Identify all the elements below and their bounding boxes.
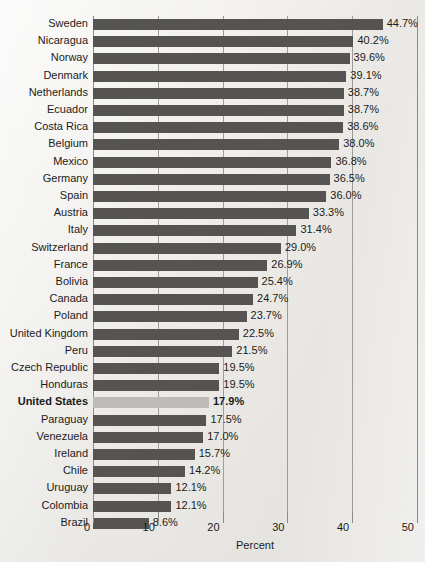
- category-label: Czech Republic: [11, 360, 88, 375]
- value-label: 24.7%: [257, 291, 288, 306]
- category-label: Nicaragua: [38, 33, 88, 48]
- bar-row: Paraguay17.5%: [93, 412, 417, 429]
- value-label: 12.1%: [175, 498, 206, 513]
- category-label: Switzerland: [31, 240, 88, 255]
- bar-row: Norway39.6%: [93, 50, 417, 67]
- bar: [93, 415, 206, 426]
- bar-row: Ireland15.7%: [93, 446, 417, 463]
- bar-row: United Kingdom22.5%: [93, 326, 417, 343]
- bar: [93, 311, 247, 322]
- x-tick-mark-10: [158, 512, 159, 523]
- x-axis: Percent 01020304050: [93, 512, 417, 562]
- value-label: 15.7%: [199, 446, 230, 461]
- bar-row: Czech Republic19.5%: [93, 360, 417, 377]
- value-label: 44.7%: [387, 16, 418, 31]
- value-label: 23.7%: [251, 308, 282, 323]
- bar: [93, 105, 344, 116]
- category-label: Honduras: [40, 377, 88, 392]
- value-label: 17.5%: [210, 412, 241, 427]
- bar: [93, 294, 253, 305]
- value-label: 26.9%: [271, 257, 302, 272]
- bar-row: Poland23.7%: [93, 308, 417, 325]
- value-label: 36.0%: [330, 188, 361, 203]
- value-label: 21.5%: [236, 343, 267, 358]
- bar: [93, 208, 309, 219]
- bar-row: Bolivia25.4%: [93, 274, 417, 291]
- bar-chart: Sweden44.7%Nicaragua40.2%Norway39.6%Denm…: [0, 0, 425, 562]
- bar: [93, 36, 353, 47]
- bar-row: Germany36.5%: [93, 171, 417, 188]
- category-label: Colombia: [42, 498, 88, 513]
- x-tick-mark-20: [223, 512, 224, 523]
- bar: [93, 346, 232, 357]
- bar: [93, 157, 331, 168]
- bar-row: Costa Rica38.6%: [93, 119, 417, 136]
- x-tick-label-0: 0: [84, 521, 93, 534]
- category-label: Austria: [54, 205, 88, 220]
- value-label: 33.3%: [313, 205, 344, 220]
- value-label: 38.7%: [348, 85, 379, 100]
- x-tick-label-40: 40: [337, 521, 352, 534]
- value-label: 38.0%: [343, 136, 374, 151]
- value-label: 38.6%: [347, 119, 378, 134]
- x-tick-label-50: 50: [402, 521, 417, 534]
- bar-row: Austria33.3%: [93, 205, 417, 222]
- value-label: 12.1%: [175, 480, 206, 495]
- bar-row: Honduras19.5%: [93, 377, 417, 394]
- bar: [93, 53, 350, 64]
- value-label: 36.8%: [335, 154, 366, 169]
- bar: [93, 174, 330, 185]
- value-label: 14.2%: [189, 463, 220, 478]
- bar-row: Netherlands38.7%: [93, 85, 417, 102]
- category-label: Canada: [49, 291, 88, 306]
- x-axis-title: Percent: [93, 539, 417, 551]
- bar: [93, 19, 383, 30]
- bar: [93, 225, 296, 236]
- x-tick-mark-30: [287, 512, 288, 523]
- bar-row: Denmark39.1%: [93, 68, 417, 85]
- bar-row: United States17.9%: [93, 394, 417, 411]
- x-tick-mark-40: [352, 512, 353, 523]
- bar: [93, 363, 219, 374]
- bar: [93, 243, 281, 254]
- bar-row: Venezuela17.0%: [93, 429, 417, 446]
- value-label: 39.6%: [354, 50, 385, 65]
- value-label: 22.5%: [243, 326, 274, 341]
- bar: [93, 71, 346, 82]
- value-label: 31.4%: [300, 222, 331, 237]
- x-tick-label-10: 10: [143, 521, 158, 534]
- bar-row: Italy31.4%: [93, 222, 417, 239]
- bar-row: Switzerland29.0%: [93, 240, 417, 257]
- category-label: Germany: [43, 171, 88, 186]
- gridline-50: [417, 16, 418, 512]
- category-label: Sweden: [48, 16, 88, 31]
- value-label: 19.5%: [223, 377, 254, 392]
- category-label: United States: [18, 394, 88, 409]
- category-label: Spain: [60, 188, 88, 203]
- category-label: Chile: [63, 463, 88, 478]
- bar-row: Spain36.0%: [93, 188, 417, 205]
- bar: [93, 397, 209, 408]
- category-label: Poland: [54, 308, 88, 323]
- x-tick-mark-0: [93, 512, 94, 523]
- category-label: Italy: [68, 222, 88, 237]
- bar-row: Canada24.7%: [93, 291, 417, 308]
- category-label: Ireland: [54, 446, 88, 461]
- bar: [93, 466, 185, 477]
- value-label: 38.7%: [348, 102, 379, 117]
- category-label: United Kingdom: [10, 326, 88, 341]
- bar: [93, 139, 339, 150]
- bar-row: Peru21.5%: [93, 343, 417, 360]
- category-label: Peru: [65, 343, 88, 358]
- category-label: Costa Rica: [34, 119, 88, 134]
- category-label: Netherlands: [29, 85, 88, 100]
- bar: [93, 122, 343, 133]
- bar: [93, 501, 171, 512]
- bar: [93, 449, 195, 460]
- bar: [93, 277, 258, 288]
- bar: [93, 191, 326, 202]
- category-label: Venezuela: [37, 429, 88, 444]
- bar-row: Belgium38.0%: [93, 136, 417, 153]
- bar-row: Uruguay12.1%: [93, 480, 417, 497]
- bar-row: Sweden44.7%: [93, 16, 417, 33]
